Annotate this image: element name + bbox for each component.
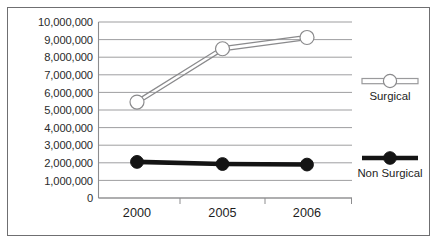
legend-label-surgical: Surgical — [369, 90, 410, 102]
y-tick-label: 1,000,000 — [44, 175, 93, 187]
line-chart: 10,000,0009,000,0008,000,0007,000,0006,0… — [0, 0, 438, 245]
data-point-non-surgical — [131, 156, 144, 169]
y-axis-tick-labels: 10,000,0009,000,0008,000,0007,000,0006,0… — [38, 16, 93, 204]
data-point-non-surgical — [216, 158, 229, 171]
legend-label-non-surgical: Non Surgical — [357, 167, 422, 179]
plot-wrapper: 10,000,0009,000,0008,000,0007,000,0006,0… — [0, 0, 438, 245]
x-axis-tickmarks — [180, 198, 352, 204]
series-non-surgical — [131, 156, 314, 171]
data-point-non-surgical — [301, 158, 314, 171]
x-tick-label: 2000 — [123, 206, 151, 220]
legend-marker-surgical-circle-icon — [383, 74, 396, 87]
y-tick-label: 10,000,000 — [38, 16, 93, 28]
chart-legend: Surgical Non Surgical — [357, 74, 422, 179]
x-tick-label: 2005 — [208, 206, 236, 220]
legend-item-surgical: Surgical — [362, 74, 418, 102]
x-tick-label: 2006 — [293, 206, 321, 220]
legend-marker-non-surgical-circle-icon — [384, 152, 397, 165]
data-point-surgical — [130, 95, 144, 109]
x-axis-tick-labels: 200020052006 — [123, 206, 321, 220]
y-tick-label: 9,000,000 — [44, 34, 93, 46]
y-tick-label: 6,000,000 — [44, 87, 93, 99]
data-point-surgical — [216, 42, 230, 56]
y-tick-label: 2,000,000 — [44, 157, 93, 169]
y-tick-label: 8,000,000 — [44, 51, 93, 63]
y-tick-label: 3,000,000 — [44, 139, 93, 151]
y-tick-label: 0 — [87, 192, 93, 204]
data-point-surgical — [300, 30, 314, 44]
y-tick-label: 4,000,000 — [44, 122, 93, 134]
legend-item-non-surgical: Non Surgical — [357, 152, 422, 179]
y-tick-label: 7,000,000 — [44, 69, 93, 81]
y-tick-label: 5,000,000 — [44, 104, 93, 116]
chart-figure: 10,000,0009,000,0008,000,0007,000,0006,0… — [0, 0, 438, 245]
series-surgical — [130, 30, 314, 109]
